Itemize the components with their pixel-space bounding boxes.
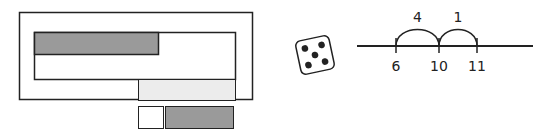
figure-canvas: 61011 41 bbox=[0, 0, 554, 135]
die-icon bbox=[295, 35, 335, 75]
tick-label: 11 bbox=[468, 58, 486, 74]
tick-label: 10 bbox=[430, 58, 448, 74]
small-white-square bbox=[139, 107, 164, 129]
light-gray-rectangle bbox=[139, 80, 236, 101]
dark-gray-bar bbox=[35, 33, 159, 55]
jump-label: 4 bbox=[413, 9, 422, 25]
small-dark-gray-bar bbox=[166, 107, 234, 129]
jump-label: 1 bbox=[454, 9, 463, 25]
area-model bbox=[20, 13, 253, 129]
jump-arc bbox=[396, 29, 439, 46]
number-line: 61011 41 bbox=[357, 9, 533, 74]
tick-label: 6 bbox=[392, 58, 401, 74]
jump-arc bbox=[439, 29, 477, 46]
